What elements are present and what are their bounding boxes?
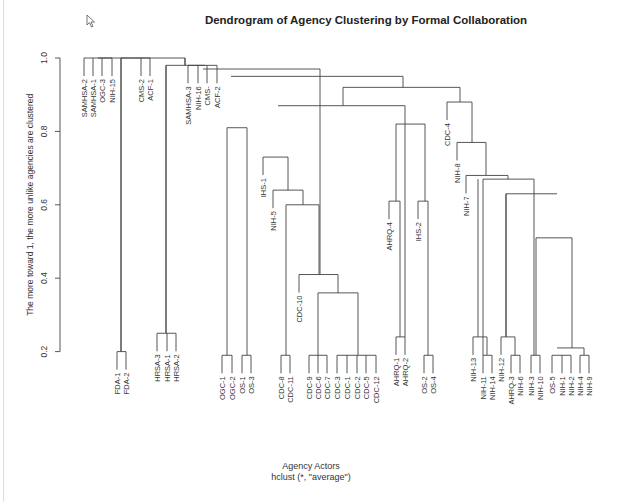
leaf-label: NIH-15 <box>108 79 117 103</box>
leaf-label: OGC-3 <box>98 79 107 103</box>
x-axis-label: Agency Actors hclust (*, "average") <box>0 461 622 483</box>
leaf-label: HRSA-3 <box>153 354 162 382</box>
leaf-label: SAMHSA-3 <box>184 86 193 124</box>
leaf-label: SAMHSA-1 <box>89 79 98 117</box>
leaf-label: CDC-8 <box>277 376 286 399</box>
y-tick-label: 0.4 <box>39 272 49 284</box>
leaf-label: OS-2 <box>420 376 429 394</box>
leaf-label: NIH-10 <box>536 376 545 400</box>
leaf-label: NIH-5 <box>269 211 278 231</box>
leaf-label: NIH-8 <box>453 163 462 183</box>
leaf-label: OS-1 <box>238 376 247 394</box>
leaf-label: CMS- <box>203 86 212 106</box>
y-tick-label: 0.2 <box>39 345 49 357</box>
leaf-label: IHS-2 <box>414 222 423 241</box>
leaf-label: CDC-9 <box>305 376 314 399</box>
y-tick-label: 0.8 <box>39 125 49 137</box>
leaf-label: FDA-2 <box>122 373 131 395</box>
leaf-label: AHRQ-1 <box>392 358 401 386</box>
leaf-label: AHRQ-4 <box>385 222 394 250</box>
leaf-label: NIH-4 <box>576 376 585 396</box>
leaf-label: HRSA-1 <box>163 354 172 382</box>
leaf-label: SAMHSA-2 <box>80 79 89 117</box>
leaf-label: NIH-12 <box>497 358 506 382</box>
leaf-label: OS-4 <box>429 376 438 394</box>
hclust-method-label: hclust (*, "average") <box>0 472 622 483</box>
leaf-label: ACF-2 <box>213 86 222 108</box>
leaf-label: IHS-1 <box>259 178 268 197</box>
leaf-label: NIH-2 <box>567 376 576 396</box>
y-tick-label: 1.0 <box>39 52 49 64</box>
leaf-label: CDC-10 <box>295 296 304 323</box>
leaf-label: NIH-7 <box>462 196 471 216</box>
leaf-label: CDC-11 <box>286 376 295 403</box>
leaf-label: OS-5 <box>548 376 557 394</box>
leaf-label: AHRQ-3 <box>507 376 516 404</box>
y-tick-label: 0.6 <box>39 199 49 211</box>
leaf-label: CDC-3 <box>333 376 342 399</box>
leaf-label: CDC-4 <box>443 123 452 146</box>
leaf-label: CDC-1 <box>343 376 352 399</box>
leaf-label: CDC-7 <box>323 376 332 399</box>
leaf-label: NIH-6 <box>516 376 525 396</box>
leaf-label: NIH-1 <box>558 376 567 396</box>
leaf-label: CDC-2 <box>353 376 362 399</box>
leaf-label: CDC-5 <box>362 376 371 399</box>
leaf-label: CDC-6 <box>314 376 323 399</box>
leaf-label: HRSA-2 <box>172 354 181 382</box>
leaf-label: NIH-9 <box>585 376 594 396</box>
y-axis-title: The more toward 1, the more unlike agenc… <box>25 94 35 316</box>
leaf-label: AHRQ-2 <box>401 358 410 386</box>
leaf-label: CMS-2 <box>137 79 146 102</box>
dendrogram-plot: 0.20.40.60.81.0The more toward 1, the mo… <box>0 0 622 502</box>
leaf-label: OGC-2 <box>228 376 237 400</box>
leaf-label: OS-3 <box>247 376 256 394</box>
leaf-label: ACF-1 <box>146 79 155 101</box>
leaf-label: NIH-3 <box>527 376 536 396</box>
leaf-label: NIH-13 <box>469 358 478 382</box>
leaf-label: OGC-1 <box>218 376 227 400</box>
x-axis-title: Agency Actors <box>0 461 622 472</box>
leaf-label: FDA-1 <box>113 373 122 395</box>
leaf-label: CDC-12 <box>372 376 381 403</box>
leaf-label: NIH-11 <box>479 376 488 399</box>
leaf-label: NIH-16 <box>194 86 203 110</box>
leaf-label: NIH-14 <box>488 376 497 400</box>
